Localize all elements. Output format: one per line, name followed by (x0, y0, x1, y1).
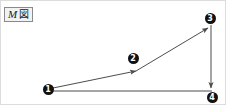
node-marker-2: 2 (128, 53, 139, 64)
figure-container: M 図 1234 (0, 0, 226, 105)
node-marker-4: 4 (207, 92, 218, 103)
edge-2-to-3 (136, 28, 208, 71)
diagram-canvas (0, 0, 226, 105)
node-marker-3: 3 (205, 13, 216, 24)
node-marker-1: 1 (43, 84, 54, 95)
edge-1-to-2 (53, 71, 136, 88)
